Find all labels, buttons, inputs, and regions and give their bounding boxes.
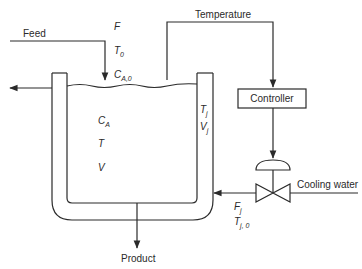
cstr-diagram: Feed F T0 CA,0 CA T V Tj Vj Product Te (0, 0, 362, 269)
feed-flow-var: F (114, 21, 121, 32)
controller-block: Controller (238, 89, 306, 158)
feed-conc-var: CA,0 (114, 69, 132, 82)
controller-label: Controller (250, 93, 294, 104)
reactor-vessel (52, 73, 213, 220)
control-valve (256, 160, 290, 202)
reactor-volume-var: V (98, 162, 106, 173)
jacket-volume-var: Vj (200, 121, 209, 135)
reactor-temp-var: T (98, 138, 105, 149)
jacket-temp-var: Tj (200, 104, 208, 118)
feed-stream: Feed (10, 28, 105, 80)
product-label: Product (121, 253, 156, 264)
coolant-flow-var: Fj (234, 201, 242, 215)
product-stream: Product (121, 203, 156, 264)
temperature-signal-arrow-icon (167, 22, 273, 87)
reactor-conc-var: CA (98, 115, 110, 128)
liquid-surface (67, 84, 197, 88)
temperature-label: Temperature (195, 9, 252, 20)
jacket-variables: Tj Vj (200, 104, 209, 135)
temperature-signal: Temperature (167, 9, 273, 87)
reactor-variables: CA T V (98, 115, 110, 173)
feed-arrow-icon (10, 41, 105, 80)
coolant-temp-var: Tj, 0 (234, 216, 250, 230)
feed-label: Feed (23, 28, 46, 39)
vessel-inner-wall (67, 73, 197, 203)
cooling-water-label: Cooling water (297, 179, 359, 190)
feed-temp-var: T0 (114, 45, 124, 58)
feed-variables: F T0 CA,0 (114, 21, 132, 82)
diaphragm-actuator-icon (256, 160, 290, 170)
coolant-variables: Fj Tj, 0 (234, 201, 250, 230)
jacket-outer-wall (52, 73, 213, 220)
